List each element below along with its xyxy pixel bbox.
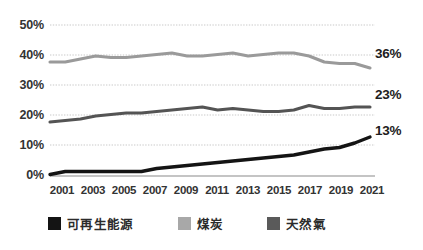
x-tick-label-2009: 2009 <box>169 184 203 196</box>
legend-swatch-coal-icon <box>178 217 191 230</box>
x-tick-label-2021: 2021 <box>355 184 389 196</box>
x-tick-label-2003: 2003 <box>76 184 110 196</box>
y-tick-label-20: 20% <box>0 108 44 122</box>
legend-label-coal: 煤炭 <box>197 214 224 233</box>
y-tick-label-0: 0% <box>0 168 44 182</box>
end-label-renewables: 13% <box>375 123 401 138</box>
x-tick-label-2005: 2005 <box>107 184 141 196</box>
x-tick-label-2007: 2007 <box>138 184 172 196</box>
x-tick-label-2001: 2001 <box>45 184 79 196</box>
chart-legend: 可再生能源 煤炭 天然氣 <box>48 210 378 236</box>
legend-item-natural-gas[interactable]: 天然氣 <box>267 214 326 233</box>
x-tick-label-2019: 2019 <box>324 184 358 196</box>
legend-label-renewables: 可再生能源 <box>67 214 134 233</box>
legend-item-renewables[interactable]: 可再生能源 <box>48 214 134 233</box>
x-tick-label-2013: 2013 <box>231 184 265 196</box>
y-tick-label-30: 30% <box>0 78 44 92</box>
legend-item-coal[interactable]: 煤炭 <box>178 214 224 233</box>
gridlines <box>50 25 375 145</box>
line-chart: 50% 40% 30% 20% 10% 0% 2001 2003 2005 20… <box>0 0 423 250</box>
y-tick-label-50: 50% <box>0 18 44 32</box>
y-tick-label-10: 10% <box>0 138 44 152</box>
legend-label-natural-gas: 天然氣 <box>286 214 326 233</box>
end-label-natural-gas: 23% <box>375 87 401 102</box>
series-line-renewables <box>50 137 370 175</box>
y-tick-label-40: 40% <box>0 48 44 62</box>
x-tick-label-2017: 2017 <box>293 184 327 196</box>
legend-swatch-natural-gas-icon <box>267 217 280 230</box>
x-tick-label-2015: 2015 <box>262 184 296 196</box>
series-line-natural-gas <box>50 106 370 123</box>
x-tick-label-2011: 2011 <box>200 184 234 196</box>
legend-swatch-renewables-icon <box>48 217 61 230</box>
end-label-coal: 36% <box>375 46 401 61</box>
